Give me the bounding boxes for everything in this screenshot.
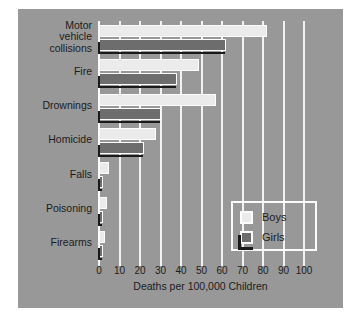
bar-boys [99, 59, 199, 71]
bar-girls [99, 73, 177, 85]
legend-label-boys: Boys [262, 211, 286, 223]
category-label: Poisoning [0, 203, 92, 215]
gridline [98, 21, 100, 261]
gridline [201, 21, 203, 261]
bar-boys [99, 128, 156, 140]
x-axis-title: Deaths per 100,000 Children [18, 280, 343, 292]
legend-item-boys: Boys [240, 208, 286, 226]
category-label-line: Firearms [0, 237, 92, 249]
category-label-line: Poisoning [0, 203, 92, 215]
x-tick-label: 100 [291, 265, 317, 277]
category-label: Falls [0, 169, 92, 181]
gridline [180, 21, 182, 261]
category-label: Homicide [0, 134, 92, 146]
bar-chart-figure: 0102030405060708090100 Motorvehiclecolli… [0, 0, 356, 320]
category-label-line: Homicide [0, 134, 92, 146]
category-label-line: Falls [0, 169, 92, 181]
category-label: Fire [0, 66, 92, 78]
bar-girls [99, 142, 144, 154]
chart-plot-panel: 0102030405060708090100 Motorvehiclecolli… [18, 9, 343, 308]
bar-boys [99, 94, 216, 106]
chart-legend: Boys Girls [231, 201, 317, 251]
bar-boys [99, 25, 267, 37]
legend-swatch-boys-icon [240, 211, 253, 224]
gridline [139, 21, 141, 261]
category-label: Firearms [0, 237, 92, 249]
bar-girls [99, 176, 103, 188]
legend-label-girls: Girls [262, 231, 285, 243]
category-label-line: Fire [0, 66, 92, 78]
plot-area: 0102030405060708090100 Motorvehiclecolli… [18, 9, 343, 308]
bar-boys [99, 231, 105, 243]
legend-item-girls: Girls [240, 228, 285, 246]
bar-girls [99, 245, 103, 257]
legend-swatch-girls-icon [240, 231, 253, 244]
category-label: Motorvehiclecollisions [0, 20, 92, 55]
category-label-line: collisions [0, 43, 92, 55]
bar-girls [99, 108, 161, 120]
category-label: Drownings [0, 100, 92, 112]
bar-girls [99, 39, 226, 51]
category-label-line: Drownings [0, 100, 92, 112]
gridline [160, 21, 162, 261]
bar-girls [99, 211, 103, 223]
gridline [221, 21, 223, 261]
bar-boys [99, 197, 107, 209]
bar-boys [99, 162, 109, 174]
gridline [119, 21, 121, 261]
